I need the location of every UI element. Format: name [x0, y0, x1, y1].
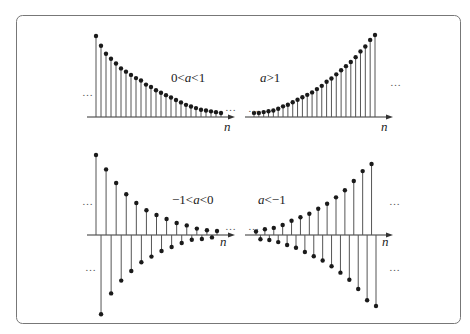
stem — [139, 78, 143, 117]
stem-dot — [124, 69, 128, 73]
stem-dot — [266, 109, 270, 113]
stem — [205, 228, 209, 235]
stem-dot — [320, 84, 324, 88]
stem-dot — [267, 238, 271, 242]
stem-dot — [295, 98, 299, 102]
stem-dot — [358, 49, 362, 53]
stem — [94, 34, 98, 117]
ellipsis-left: … — [82, 86, 93, 98]
stem — [94, 153, 98, 235]
stem-dot — [352, 179, 356, 183]
stem — [281, 104, 285, 117]
stem — [280, 223, 284, 235]
stem — [119, 66, 123, 117]
stem — [298, 215, 302, 235]
stem — [267, 235, 271, 242]
parameter-label: a<−1 — [258, 192, 286, 207]
stem — [272, 226, 276, 235]
stem-dot — [94, 153, 98, 157]
parameter-label: a>1 — [260, 70, 280, 85]
stem-dot — [159, 91, 163, 95]
stem — [144, 208, 148, 235]
stem-dot — [310, 90, 314, 94]
stem-dot — [104, 167, 108, 171]
stem-dot — [194, 106, 198, 110]
stem — [303, 235, 307, 254]
stem — [174, 221, 178, 235]
stem-dot — [169, 95, 173, 99]
stem — [285, 235, 289, 247]
stem-dot — [353, 55, 357, 59]
stem-dot — [109, 56, 113, 60]
stem-dot — [349, 60, 353, 64]
stem — [104, 52, 108, 117]
stem — [129, 73, 133, 117]
stem-dot — [316, 207, 320, 211]
stem — [365, 235, 369, 303]
stem — [276, 107, 280, 117]
stem — [329, 235, 333, 268]
axis-arrow-icon — [228, 233, 235, 238]
stem — [99, 235, 103, 316]
stem — [134, 76, 138, 117]
stem-dot — [312, 254, 316, 258]
stem-panel-top-left: 0<a<1n…… — [82, 34, 236, 134]
stem — [338, 235, 342, 275]
stem — [180, 235, 184, 245]
stem — [343, 188, 347, 235]
ellipsis-left: … — [248, 220, 259, 232]
stem — [204, 108, 208, 117]
stem-dot — [289, 219, 293, 223]
stem-dot — [315, 87, 319, 91]
stem — [200, 235, 204, 241]
ellipsis-right: … — [225, 220, 236, 232]
stem-dot — [190, 238, 194, 242]
stem-dot — [285, 243, 289, 247]
stem-dot — [271, 108, 275, 112]
stem-dot — [325, 202, 329, 206]
stem-dot — [154, 213, 158, 217]
stem-dot — [149, 85, 153, 89]
stem-dot — [195, 226, 199, 230]
stem-dot — [114, 181, 118, 185]
stem-dot — [219, 111, 223, 115]
stem — [154, 88, 158, 117]
stem — [305, 93, 309, 117]
stem-dot — [134, 201, 138, 205]
stem-dot — [303, 250, 307, 254]
stem-dot — [124, 192, 128, 196]
stem — [334, 72, 338, 117]
stem-dot — [149, 254, 153, 258]
stem — [164, 217, 168, 235]
stem-dot — [374, 304, 378, 308]
stem-dot — [294, 246, 298, 250]
stem — [134, 201, 138, 235]
n-axis-label: n — [220, 234, 227, 249]
stem — [369, 162, 373, 235]
stem — [179, 100, 183, 117]
stem — [286, 103, 290, 118]
stem — [144, 82, 148, 117]
ellipsis-right: … — [225, 101, 236, 113]
stem-dot — [139, 78, 143, 82]
stem — [374, 235, 378, 308]
stem-dot — [200, 237, 204, 241]
stem-dot — [272, 226, 276, 230]
stem — [209, 109, 213, 117]
stem-dot — [154, 88, 158, 92]
stem — [139, 235, 143, 264]
n-axis-label: n — [382, 234, 389, 249]
figure: 0<a<1n……a>1n……−1<a<0n………a<−1n……… — [0, 0, 470, 334]
stem — [320, 235, 324, 263]
stem-dot — [184, 103, 188, 107]
stem-dot — [164, 93, 168, 97]
stem — [344, 64, 348, 117]
stem-dot — [205, 228, 209, 232]
parameter-label: 0<a<1 — [171, 70, 205, 85]
stem — [210, 235, 214, 240]
stem — [169, 95, 173, 117]
stem-dot — [339, 68, 343, 72]
stem — [149, 235, 153, 259]
stem-dot — [280, 223, 284, 227]
stem-dot — [291, 100, 295, 104]
